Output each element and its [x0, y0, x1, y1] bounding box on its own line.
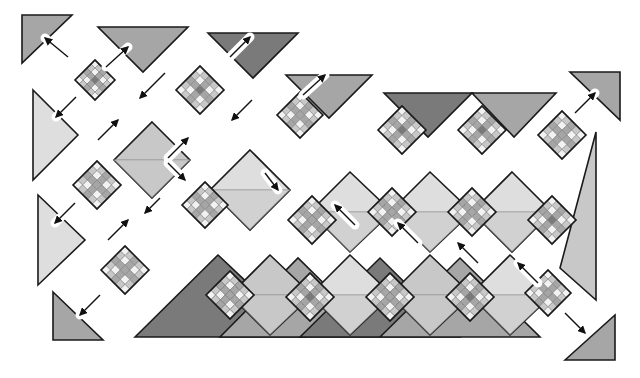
assembly-arrow-icon	[232, 100, 252, 120]
arrow-line	[98, 120, 118, 140]
arrow-line	[575, 93, 595, 113]
arrow-line	[140, 73, 165, 98]
assembly-arrow-icon	[56, 97, 76, 117]
arrow-line	[45, 38, 68, 57]
quilt-assembly-diagram: Quilt assembly diagram - diagonal rows w…	[0, 0, 640, 378]
arrow-line	[232, 100, 252, 120]
setting-triangle	[38, 195, 85, 285]
quilt-block	[101, 246, 149, 294]
arrow-line	[565, 313, 585, 333]
diagram-canvas	[0, 0, 640, 378]
quilt-block	[73, 161, 121, 209]
assembly-arrow-icon	[108, 220, 128, 240]
assembly-arrow-icon	[80, 295, 100, 315]
assembly-arrow-icon	[98, 120, 118, 140]
assembly-arrow-icon	[140, 73, 165, 98]
assembly-arrow-icon	[106, 47, 128, 67]
assembly-arrow-icon	[565, 313, 585, 333]
quilt-block	[176, 66, 224, 114]
quilt-block	[538, 111, 586, 159]
arrow-line	[56, 97, 76, 117]
arrow-line	[80, 295, 100, 315]
assembly-arrow-icon	[575, 93, 595, 113]
arrow-line	[108, 220, 128, 240]
assembly-arrow-icon	[45, 38, 68, 57]
arrow-line	[106, 47, 128, 67]
assembly-arrow-icon	[145, 198, 160, 213]
plain-square	[114, 122, 190, 198]
